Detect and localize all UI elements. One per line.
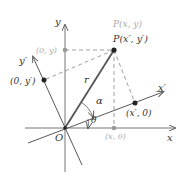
y-prime-axis-label: y′: [18, 55, 28, 66]
x-projection-label: (x, 0): [105, 132, 126, 141]
point-x-prime-projection: [133, 101, 138, 106]
y-prime-projection-label: (0, y′): [10, 76, 36, 86]
point-x-projection: [112, 126, 117, 131]
point-rotated-label: P(x′, y′): [112, 33, 148, 44]
x-prime-projection-label: (x′, 0): [126, 108, 152, 118]
rotation-of-axes-diagram: y x y′ x′ O r α θ P(x, y) P(x′, y′) (0, …: [0, 0, 185, 175]
alpha-label: α: [96, 95, 103, 106]
x-prime-axis-label: x′: [158, 82, 167, 93]
radius-label: r: [84, 74, 90, 85]
point-y-prime-projection: [42, 78, 47, 83]
y-projection-label: (0, y): [36, 46, 57, 55]
origin-label: O: [55, 132, 63, 143]
point-p: [111, 47, 116, 52]
dash-p-to-x-prime-axis: [114, 50, 135, 103]
point-y-projection: [63, 48, 68, 53]
x-axis-label: x: [167, 132, 173, 143]
radius-line: [65, 50, 114, 128]
y-axis-label: y: [54, 16, 61, 27]
origin-point: [63, 126, 67, 130]
theta-label: θ: [91, 115, 97, 125]
point-original-label: P(x, y): [112, 19, 142, 29]
